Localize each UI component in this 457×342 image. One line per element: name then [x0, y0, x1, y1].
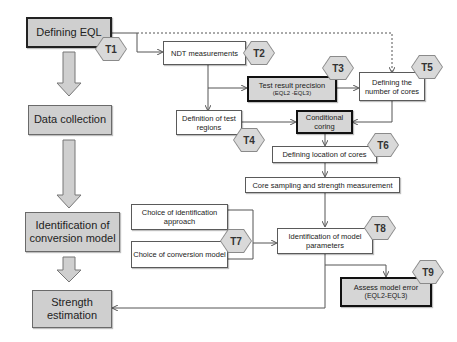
strength-estimation-label: Strength estimation [33, 296, 111, 322]
data-collection-label: Data collection [34, 113, 106, 126]
identification-model-parameters-label: Identification of model parameters [278, 232, 372, 250]
connector-params-strength [113, 265, 325, 308]
identification-model-parameters-box: Identification of model parameters [277, 228, 373, 254]
strength-estimation-box: Strength estimation [32, 290, 112, 328]
core-sampling-label: Core sampling and strength measurement [252, 181, 392, 190]
defining-number-of-cores-box: Defining the number of cores [359, 72, 425, 101]
assess-model-error-sub: (EQL2-EQL3) [354, 292, 419, 300]
block-arrow-2 [57, 140, 81, 208]
block-arrow-1 [57, 52, 81, 96]
choice-identification-approach-box: Choice of identification approach [131, 204, 228, 230]
ndt-measurements-box: NDT measurements [163, 41, 246, 65]
connector-params-error [325, 254, 386, 276]
core-sampling-box: Core sampling and strength measurement [245, 177, 400, 193]
defining-location-cores-box: Defining location of cores [272, 146, 377, 163]
assess-model-error-box: Assess model error (EQL2-EQL3) [340, 277, 432, 307]
block-arrow-3 [57, 257, 81, 282]
connector-cores-conditional [353, 101, 392, 122]
conditional-coring-box: Conditional coring [296, 110, 353, 134]
assess-model-error-label: Assess model error [354, 283, 419, 292]
data-collection-box: Data collection [28, 105, 112, 135]
identification-conversion-model-label: Identification of conversion model [26, 219, 119, 245]
ndt-measurements-label: NDT measurements [171, 49, 238, 58]
defining-location-cores-label: Defining location of cores [282, 150, 366, 159]
definition-test-regions-box: Definition of test regions [176, 110, 242, 135]
test-result-precision-label: Test result precision [259, 81, 325, 90]
conditional-coring-label: Conditional coring [298, 113, 351, 131]
choice-conversion-model-box: Choice of conversion model [131, 241, 228, 268]
test-result-precision-sub: (EQL2 -EQL3) [259, 90, 325, 97]
choice-conversion-model-label: Choice of conversion model [133, 250, 226, 259]
definition-test-regions-label: Definition of test regions [177, 114, 241, 132]
identification-conversion-model-box: Identification of conversion model [25, 212, 120, 252]
choice-identification-approach-label: Choice of identification approach [132, 208, 227, 226]
defining-eql-label: Defining EQL [36, 26, 101, 39]
defining-number-of-cores-label: Defining the number of cores [360, 78, 424, 96]
test-result-precision-box: Test result precision (EQL2 -EQL3) [247, 76, 337, 102]
